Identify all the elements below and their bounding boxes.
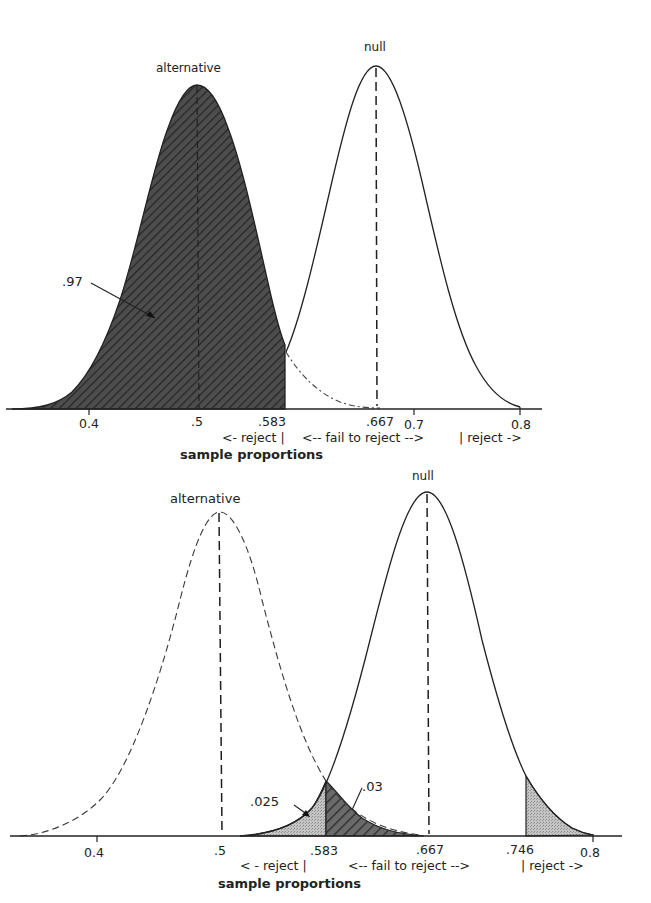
- beta-label-pointer: [352, 788, 362, 810]
- top-tick-0.5: .5: [191, 416, 203, 429]
- top-reject-right-label: | reject ->: [459, 432, 522, 445]
- bottom-tick-0.4: 0.4: [84, 847, 104, 860]
- top-alternative-label: alternative: [156, 62, 221, 74]
- top-fail-to-reject-label: <-- fail to reject -->: [302, 432, 424, 445]
- top-reject-left-label: <- reject |: [222, 432, 285, 445]
- bottom-beta-label: .03: [362, 780, 383, 793]
- bottom-tick-0.5: .5: [214, 845, 226, 858]
- bottom-reject-left-label: < - reject |: [240, 860, 307, 873]
- bottom-panel: [10, 492, 622, 842]
- null-curve-tail-dashed: [286, 352, 380, 408]
- top-null-label: null: [364, 41, 386, 53]
- top-tick-0.583: .583: [258, 416, 286, 429]
- top-tick-0.4: 0.4: [79, 418, 99, 431]
- bottom-x-axis-title: sample proportions: [218, 877, 361, 890]
- alternative-power-area: [12, 85, 285, 409]
- bottom-alpha-label: .025: [250, 795, 279, 808]
- null-curve-bottom: [240, 492, 593, 836]
- hypothesis-test-diagram: [0, 0, 651, 903]
- null-mean-line-bottom: [427, 494, 429, 834]
- bottom-alternative-label: alternative: [170, 492, 240, 505]
- bottom-tick-0.583: .583: [310, 845, 338, 858]
- top-tick-0.667: .667: [366, 416, 394, 429]
- top-x-axis-title: sample proportions: [180, 448, 323, 461]
- bottom-tick-0.667: .667: [416, 844, 444, 857]
- top-area-label: .97: [62, 275, 83, 288]
- null-curve: [286, 66, 520, 407]
- alternative-mean-line-bottom: [219, 513, 222, 834]
- null-upper-tail-alpha-area: [526, 776, 593, 836]
- bottom-null-label: null: [412, 470, 434, 482]
- bottom-reject-right-label: | reject ->: [521, 860, 584, 873]
- bottom-fail-to-reject-label: <-- fail to reject -->: [348, 860, 470, 873]
- null-mean-line: [376, 68, 377, 406]
- bottom-tick-0.746: .746: [506, 844, 534, 857]
- top-panel: [6, 66, 542, 415]
